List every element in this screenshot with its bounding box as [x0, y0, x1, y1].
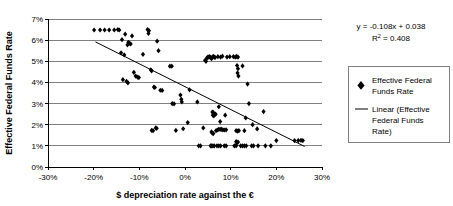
gridlines [48, 19, 322, 146]
data-point [247, 101, 251, 106]
data-point [155, 39, 159, 44]
y-tick-label: 3% [31, 100, 43, 109]
data-point [107, 27, 111, 32]
data-point [261, 109, 265, 114]
data-point [218, 119, 222, 124]
data-point [255, 126, 259, 131]
data-point [263, 143, 267, 148]
y-axis-tick-labels: 0%1%2%3%4%5%6%7% [31, 15, 43, 172]
y-tick-label: 7% [31, 15, 43, 24]
trendline [95, 42, 304, 147]
data-point [217, 104, 221, 109]
x-axis-tick-labels: -30%-20%-10%0%10%20%30% [39, 173, 330, 182]
data-point [130, 33, 134, 38]
y-tick-label: 0% [31, 163, 43, 172]
legend-item-1-label-line2: Federal Funds [372, 116, 424, 125]
y-tick-label: 1% [31, 142, 43, 151]
data-point [250, 122, 254, 127]
data-point [103, 27, 107, 32]
data-point [223, 113, 227, 118]
y-axis-title: Effective Federal Funds Rate [4, 31, 14, 155]
data-point [201, 125, 205, 130]
data-point [256, 143, 260, 148]
legend-item-1-label-line1: Linear (Effective [372, 105, 430, 114]
data-point [178, 93, 182, 98]
y-tick-label: 5% [31, 57, 43, 66]
scatter-chart: 0%1%2%3%4%5%6%7% -30%-20%-10%0%10%20%30%… [0, 0, 453, 206]
x-tick-label: 20% [268, 173, 284, 182]
y-tick-label: 6% [31, 36, 43, 45]
data-point [240, 63, 244, 68]
legend-item-0-label-line2: Funds Rate [372, 87, 414, 96]
data-point [269, 143, 273, 148]
data-point [98, 27, 102, 32]
x-tick-label: -10% [130, 173, 149, 182]
y-tick-label: 4% [31, 78, 43, 87]
x-tick-label: -30% [39, 173, 58, 182]
data-point [242, 128, 246, 133]
data-point [92, 27, 96, 32]
data-point [121, 77, 125, 82]
x-tick-label: -20% [84, 173, 103, 182]
legend-item-0-label-line1: Effective Federal [372, 76, 432, 85]
chart-canvas: 0%1%2%3%4%5%6%7% -30%-20%-10%0%10%20%30%… [0, 0, 453, 206]
legend-item-1-label-line3: Rate) [372, 127, 392, 136]
x-tick-label: 0% [179, 173, 191, 182]
data-point [123, 32, 127, 37]
data-point [112, 27, 116, 32]
x-axis-title: $ depreciation rate against the € [116, 190, 254, 200]
data-point [120, 37, 124, 42]
x-tick-label: 10% [223, 173, 239, 182]
trendline-path [95, 42, 304, 147]
data-point [174, 128, 178, 133]
data-point [156, 48, 160, 53]
data-point [274, 138, 278, 143]
trendline-equation: y = -0.108x + 0.038 [357, 22, 426, 31]
data-point [181, 126, 185, 131]
data-point [141, 52, 145, 57]
y-tick-label: 2% [31, 121, 43, 130]
axes [48, 19, 322, 167]
r-squared-value: = 0.408 [381, 34, 411, 43]
chart-legend[interactable]: Effective Federal Funds Rate Linear (Eff… [348, 66, 449, 142]
r-squared-annotation: R2 = 0.408 [372, 33, 411, 43]
x-tick-label: 30% [314, 173, 330, 182]
data-point [228, 54, 232, 59]
tick-marks [45, 19, 322, 170]
